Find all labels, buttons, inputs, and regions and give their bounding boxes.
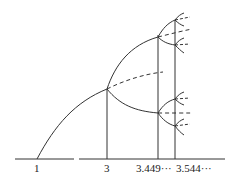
fixed-point-curve xyxy=(37,89,107,159)
period2-lower-branch xyxy=(107,89,158,113)
axis-label-3544: 3.544··· xyxy=(176,163,212,174)
bifurcation-diagram xyxy=(0,0,239,183)
unstable-fixed-point-dashed xyxy=(107,72,163,89)
period4-dashed xyxy=(175,124,190,126)
axis-label-3: 3 xyxy=(104,163,110,174)
period4-fork-d xyxy=(158,113,175,126)
period8-fork xyxy=(175,119,184,135)
axis-label-3449: 3.449··· xyxy=(136,163,172,174)
axis-label-1: 1 xyxy=(34,163,40,174)
period2-upper-branch xyxy=(107,37,158,89)
period4-fork-b xyxy=(158,37,175,45)
period4-dashed xyxy=(175,98,190,99)
period4-dashed xyxy=(175,44,190,45)
period8-fork xyxy=(175,38,184,53)
period4-fork-c xyxy=(158,99,175,113)
